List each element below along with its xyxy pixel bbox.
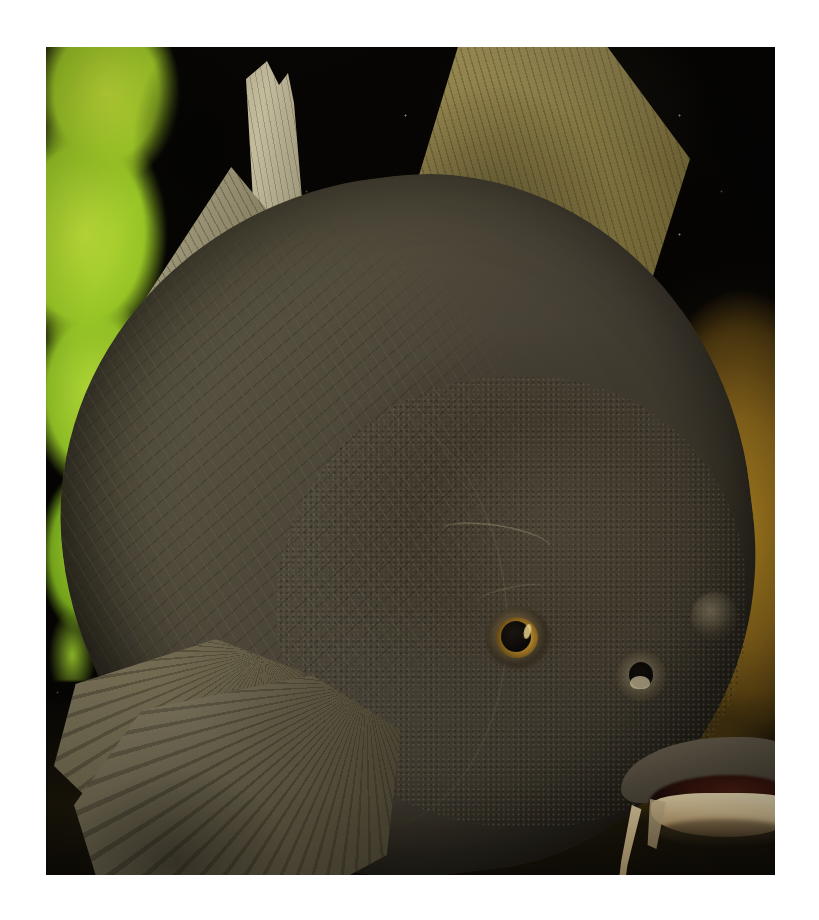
fish-photograph <box>46 47 775 875</box>
photo-page: Close-up photograph of a large dark oliv… <box>0 0 819 920</box>
nostril-flap <box>630 676 650 689</box>
eye <box>486 607 550 669</box>
lower-lip-shadow <box>657 819 775 845</box>
snout-bump <box>691 592 737 640</box>
nostril <box>616 651 666 701</box>
mouth <box>621 737 775 857</box>
